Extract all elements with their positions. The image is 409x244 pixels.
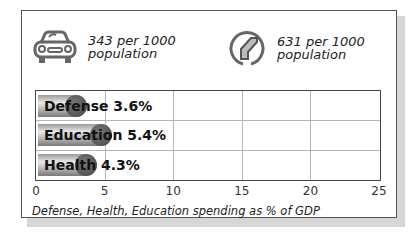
car-icon [32,29,78,65]
x-tick-label: 25 [371,184,386,198]
grid-line-vertical [242,91,243,180]
road-stat-unit: population [277,48,365,61]
bar-label: Defense 3.6% [44,98,152,114]
x-tick-label: 0 [32,184,40,198]
bar-defense: Defense 3.6% [36,91,144,121]
x-axis-ticks: 0510152025 [35,184,381,198]
bar-health: Health 4.3% [36,150,132,180]
x-tick-label: 20 [303,184,318,198]
bar-label: Health 4.3% [44,157,140,173]
x-tick-label: 5 [101,184,109,198]
x-tick-label: 15 [234,184,249,198]
bar-label: Education 5.4% [44,127,166,143]
chart-caption: Defense, Health, Education spending as %… [32,204,320,218]
road-stat: 631 per 1000 population [229,29,365,67]
car-stat-text: 343 per 1000 population [88,34,176,60]
road-stat-text: 631 per 1000 population [277,35,365,61]
grid-line-vertical [310,91,311,180]
car-stat-unit: population [88,47,176,60]
grid-line-vertical [173,91,174,180]
x-tick-label: 10 [166,184,181,198]
infographic-panel: 343 per 1000 population 631 per 1000 pop… [21,10,397,218]
chart-plot-area: Defense 3.6%Education 5.4%Health 4.3% [35,90,381,181]
car-stat: 343 per 1000 population [32,29,176,65]
road-icon [229,29,267,67]
bar-education: Education 5.4% [36,120,158,150]
